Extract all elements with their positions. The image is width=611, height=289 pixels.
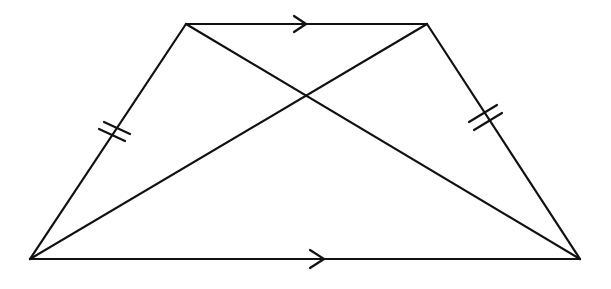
trapezoid-diagram	[0, 0, 611, 289]
right-leg-edge	[427, 24, 580, 259]
diagonal-top-right-to-bottom-left	[30, 24, 427, 259]
diagonal-top-left-to-bottom-right	[186, 24, 580, 259]
double-tick-icon-right	[469, 105, 502, 130]
left-leg-edge	[30, 24, 186, 259]
